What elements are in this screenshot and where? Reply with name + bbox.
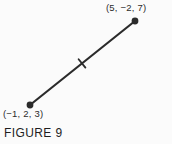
lower-point-label: (−1, 2, 3) <box>3 108 43 119</box>
figure-caption: FIGURE 9 <box>4 126 63 140</box>
upper-endpoint-dot <box>132 18 139 25</box>
line-segment-diagram <box>0 0 172 144</box>
upper-point-label: (5, −2, 7) <box>106 2 146 13</box>
figure-container: (5, −2, 7) (−1, 2, 3) FIGURE 9 <box>0 0 172 144</box>
